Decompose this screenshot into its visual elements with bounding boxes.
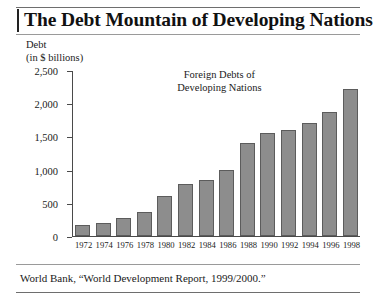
chart-figure: The Debt Mountain of Developing Nations … [0, 0, 375, 300]
x-axis-line [72, 236, 360, 237]
x-axis-tick-label: 1988 [240, 240, 255, 250]
y-axis-tick: 1,000 [67, 171, 72, 172]
x-axis-tick-label: 1992 [281, 240, 296, 250]
x-axis-tick-label: 1986 [219, 240, 234, 250]
x-axis-tick-label: 1996 [322, 240, 337, 250]
plot-area: Foreign Debts of Developing Nations 0500… [72, 71, 360, 237]
y-axis-tick-label: 500 [42, 198, 58, 209]
bar [322, 112, 337, 236]
x-axis-tick-label: 1978 [137, 240, 152, 250]
x-axis-tick-label: 1982 [178, 240, 193, 250]
bar [240, 143, 255, 236]
y-axis-tick: 2,500 [67, 71, 72, 72]
y-axis-tick-label: 0 [53, 232, 58, 243]
bar [137, 212, 152, 236]
chart-title: The Debt Mountain of Developing Nations [24, 7, 364, 33]
y-axis-tick-label: 1,000 [34, 165, 58, 176]
y-axis-tick-label: 2,000 [34, 99, 58, 110]
y-axis-tick: 1,500 [67, 137, 72, 138]
y-axis-caption-line2: (in $ billions) [26, 52, 83, 65]
y-axis-caption: Debt (in $ billions) [26, 39, 83, 64]
bar [157, 196, 172, 236]
y-axis-tick: 2,000 [67, 104, 72, 105]
x-axis-tick-label: 1972 [75, 240, 90, 250]
x-axis-tick-label: 1990 [260, 240, 275, 250]
title-left-rule [17, 9, 19, 32]
x-axis-tick-label: 1976 [116, 240, 131, 250]
source-top-rule [16, 264, 360, 265]
source-bottom-rule [16, 292, 360, 293]
bar [75, 225, 90, 236]
bar [260, 133, 275, 236]
bar [343, 89, 358, 236]
x-axis-tick-label: 1998 [343, 240, 358, 250]
x-axis-tick-labels: 1972197419761978198019821984198619881990… [73, 240, 360, 250]
x-axis-tick-label: 1984 [199, 240, 214, 250]
bar [302, 123, 317, 236]
bar [219, 170, 234, 236]
bar [96, 223, 111, 236]
bar-series [73, 71, 360, 236]
x-axis-tick-label: 1974 [96, 240, 111, 250]
bar [281, 130, 296, 236]
title-bottom-rule [16, 34, 360, 35]
y-axis-tick: 500 [67, 204, 72, 205]
bar [178, 184, 193, 236]
y-axis-tick-label: 1,500 [34, 132, 58, 143]
x-axis-tick-label: 1980 [157, 240, 172, 250]
y-axis-tick-label: 2,500 [34, 66, 58, 77]
source-caption: World Bank, “World Development Report, 1… [20, 272, 266, 284]
bar [199, 180, 214, 236]
bar [116, 218, 131, 236]
y-axis-tick: 0 [67, 237, 72, 238]
x-axis-tick-label: 1994 [302, 240, 317, 250]
y-axis-caption-line1: Debt [26, 39, 83, 52]
